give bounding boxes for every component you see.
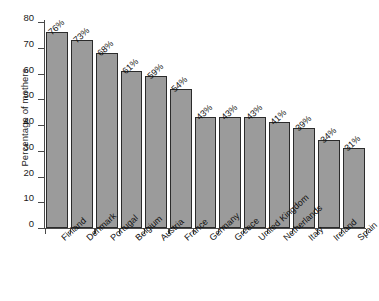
y-tick-label: 0: [4, 219, 34, 229]
y-tick-label: 10: [4, 193, 34, 203]
y-tick-label: 50: [4, 90, 34, 100]
bar: [219, 117, 241, 228]
y-tick-mark: [38, 202, 44, 203]
y-tick-mark: [38, 177, 44, 178]
x-tick-mark: [45, 229, 46, 234]
bar: [170, 89, 192, 228]
y-tick-label: 40: [4, 116, 34, 126]
y-tick-mark: [38, 125, 44, 126]
y-tick-mark: [38, 74, 44, 75]
y-tick-label: 60: [4, 65, 34, 75]
y-tick-label: 20: [4, 168, 34, 178]
bar: [145, 76, 167, 228]
bar: [71, 40, 93, 228]
y-tick-mark: [38, 99, 44, 100]
bar: [96, 53, 118, 228]
bar: [121, 71, 143, 228]
y-tick-label: 70: [4, 39, 34, 49]
y-tick-label: 80: [4, 13, 34, 23]
y-tick-label: 30: [4, 142, 34, 152]
bar: [46, 32, 68, 228]
bar: [195, 117, 217, 228]
y-tick-mark: [38, 228, 44, 229]
y-tick-mark: [38, 151, 44, 152]
y-tick-mark: [38, 48, 44, 49]
bar: [343, 148, 365, 228]
bar: [318, 140, 340, 228]
y-axis-line: [44, 20, 45, 229]
bar: [244, 117, 266, 228]
y-tick-mark: [38, 22, 44, 23]
